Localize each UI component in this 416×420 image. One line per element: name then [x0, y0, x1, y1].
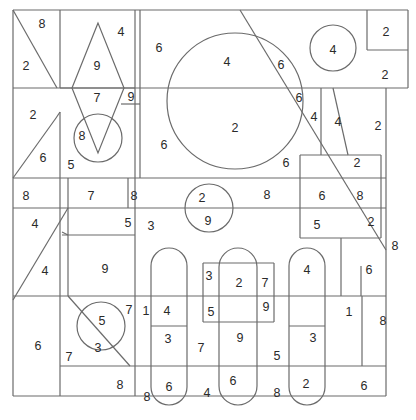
region-number: 4	[118, 25, 125, 39]
region-number: 7	[262, 276, 269, 290]
region-number: 2	[382, 68, 389, 82]
region-number: 4	[42, 264, 49, 278]
region-number: 8	[39, 17, 46, 31]
region-number: 5	[68, 158, 75, 172]
region-number: 6	[40, 151, 47, 165]
region-boundary-line	[240, 10, 386, 250]
region-number: 9	[102, 262, 109, 276]
region-number: 3	[148, 219, 155, 233]
region-number: 4	[304, 263, 311, 277]
region-number: 1	[143, 304, 150, 318]
region-number: 7	[126, 303, 133, 317]
region-number: 9	[205, 214, 212, 228]
region-number: 5	[274, 349, 281, 363]
region-number: 5	[125, 216, 132, 230]
region-number: 8	[144, 390, 151, 404]
region-number: 6	[283, 156, 290, 170]
region-number: 2	[368, 215, 375, 229]
region-number: 8	[274, 386, 281, 400]
region-number: 4	[311, 110, 318, 124]
puzzle-diagram: 8249646422792865626442628782868453952849…	[0, 0, 416, 420]
region-number: 5	[208, 305, 215, 319]
region-number: 6	[361, 379, 368, 393]
region-number: 6	[156, 41, 163, 55]
region-number: 9	[237, 331, 244, 345]
region-number: 8	[264, 188, 271, 202]
region-boundary-line	[13, 118, 56, 178]
region-number: 8	[392, 239, 399, 253]
region-number: 4	[204, 386, 211, 400]
region-number: 4	[335, 115, 342, 129]
region-number: 1	[346, 305, 353, 319]
region-number: 8	[380, 314, 387, 328]
region-number: 7	[198, 341, 205, 355]
region-shapes	[72, 23, 356, 405]
region-number: 4	[32, 217, 39, 231]
region-number: 4	[164, 304, 171, 318]
region-numbers: 8249646422792865626442628782868453952849…	[23, 17, 399, 404]
region-lines	[13, 10, 408, 396]
region-number: 6	[35, 339, 42, 353]
puzzle-grid: 8249646422792865626442628782868453952849…	[0, 0, 416, 420]
region-number: 2	[232, 121, 239, 135]
region-number: 3	[310, 331, 317, 345]
region-number: 7	[88, 189, 95, 203]
region-number: 7	[94, 91, 101, 105]
region-number: 6	[319, 189, 326, 203]
region-number: 2	[199, 191, 206, 205]
region-number: 6	[161, 138, 168, 152]
region-number: 6	[230, 374, 237, 388]
region-number: 4	[330, 43, 337, 57]
region-number: 5	[314, 218, 321, 232]
region-number: 7	[66, 350, 73, 364]
region-number: 5	[99, 314, 106, 328]
region-boundary-line	[13, 10, 57, 88]
region-number: 8	[357, 189, 364, 203]
region-number: 6	[278, 58, 285, 72]
region-number: 9	[128, 90, 135, 104]
region-number: 2	[23, 59, 30, 73]
region-number: 8	[117, 378, 124, 392]
region-number: 6	[296, 91, 303, 105]
region-number: 2	[375, 119, 382, 133]
region-number: 6	[366, 263, 373, 277]
region-number: 2	[383, 25, 390, 39]
region-number: 8	[79, 129, 86, 143]
region-number: 9	[263, 300, 270, 314]
region-number: 3	[206, 269, 213, 283]
capsule-shape	[219, 248, 257, 405]
region-number: 2	[303, 377, 310, 391]
region-number: 2	[354, 156, 361, 170]
region-number: 6	[166, 380, 173, 394]
region-number: 3	[95, 341, 102, 355]
region-number: 3	[165, 332, 172, 346]
circle-shape	[167, 33, 303, 169]
region-number: 9	[94, 59, 101, 73]
region-number: 8	[23, 189, 30, 203]
region-number: 4	[224, 55, 231, 69]
region-number: 8	[131, 189, 138, 203]
region-number: 2	[30, 108, 37, 122]
region-number: 2	[236, 276, 243, 290]
